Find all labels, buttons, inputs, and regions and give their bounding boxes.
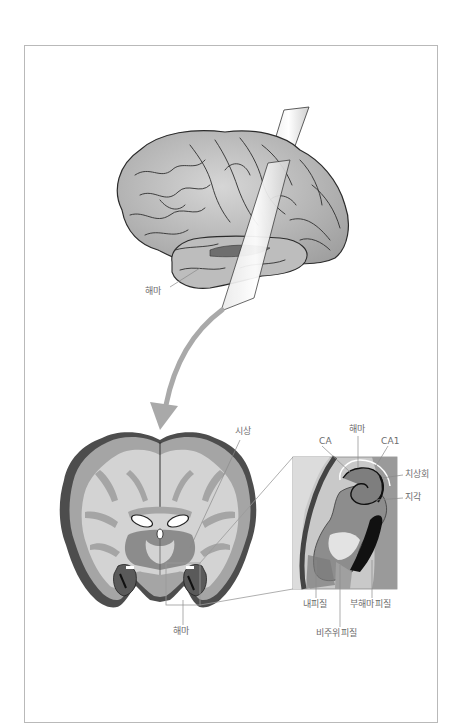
brain-diagram [0, 0, 459, 728]
label-ca1: CA1 [381, 437, 400, 446]
label-hippocampus-lateral: 해마 [145, 287, 161, 296]
label-entorhinal-cortex: 내피질 [303, 600, 328, 609]
lateral-brain [117, 107, 348, 311]
label-parahippocampal-cortex: 부해마피질 [350, 600, 391, 609]
label-ca: CA [319, 437, 332, 446]
left-hippocampus [113, 564, 136, 596]
right-hippocampus [184, 564, 207, 596]
label-perirhinal-cortex: 비주위피질 [316, 629, 357, 638]
label-subiculum: 지각 [405, 493, 421, 502]
label-hippocampus-inset: 해마 [349, 425, 365, 434]
label-hippocampus-coronal: 해마 [173, 627, 189, 636]
label-dentate-gyrus: 치상회 [405, 470, 430, 479]
coronal-section [60, 432, 293, 625]
label-thalamus: 시상 [235, 427, 251, 436]
transition-arrow [150, 310, 222, 430]
